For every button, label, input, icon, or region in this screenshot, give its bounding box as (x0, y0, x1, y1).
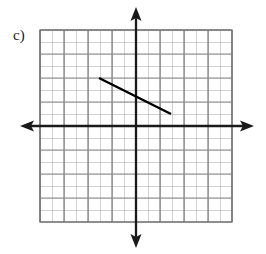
graph-figure: c) (0, 0, 266, 254)
coordinate-grid-graph (0, 0, 266, 254)
